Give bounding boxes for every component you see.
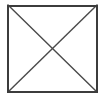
square-with-diagonals-figure <box>0 0 104 99</box>
figure-canvas <box>0 0 104 99</box>
